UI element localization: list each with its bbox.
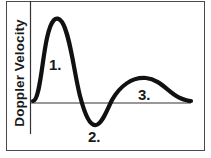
annotation-2: 2. (88, 129, 101, 144)
y-axis-label: Doppler Velocity (12, 19, 27, 126)
annotation-1: 1. (49, 57, 62, 72)
annotation-3: 3. (138, 87, 151, 102)
chart-plot (0, 0, 211, 158)
